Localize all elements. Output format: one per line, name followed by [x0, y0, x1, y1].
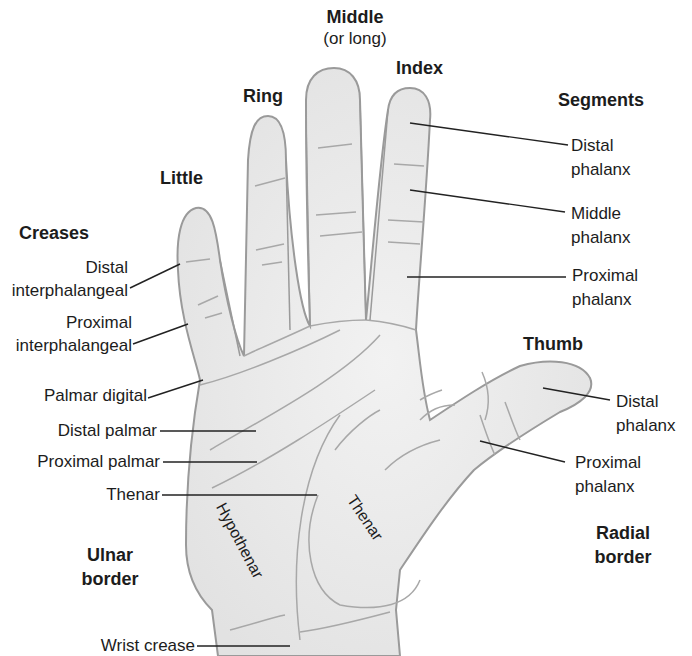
finger-label-middle: Middle [315, 7, 395, 27]
radial-border-line2: border [578, 547, 668, 567]
crease-distal-ip-line1: Distal [0, 258, 128, 278]
finger-label-little: Little [160, 168, 203, 188]
segment-distal-line2: phalanx [571, 160, 631, 180]
crease-thenar: Thenar [0, 485, 160, 505]
thumb-distal-line1: Distal [616, 392, 659, 412]
thumb-distal-line2: phalanx [616, 416, 676, 436]
thumb-proximal-line2: phalanx [575, 477, 635, 497]
finger-label-middle-alt: (or long) [305, 29, 405, 49]
crease-wrist: Wrist crease [0, 636, 195, 656]
segments-heading: Segments [558, 90, 644, 110]
crease-proximal-ip-line2: interphalangeal [0, 336, 132, 356]
finger-label-ring: Ring [243, 86, 283, 106]
radial-border-line1: Radial [578, 523, 668, 543]
segment-distal-line1: Distal [571, 136, 614, 156]
finger-label-thumb: Thumb [523, 334, 583, 354]
thumb-proximal-line1: Proximal [575, 453, 641, 473]
segment-middle-line2: phalanx [571, 228, 631, 248]
creases-heading: Creases [19, 223, 89, 243]
crease-distal-palmar: Distal palmar [0, 421, 157, 441]
crease-proximal-palmar: Proximal palmar [0, 452, 160, 472]
ulnar-border-line1: Ulnar [65, 545, 155, 565]
crease-palmar-digital: Palmar digital [0, 386, 147, 406]
ulnar-border-line2: border [65, 569, 155, 589]
segment-middle-line1: Middle [571, 204, 621, 224]
hand-anatomy-diagram: Middle (or long) Index Ring Little Thumb… [0, 0, 692, 656]
segment-proximal-line2: phalanx [572, 290, 632, 310]
crease-proximal-ip-line1: Proximal [0, 313, 132, 333]
segment-proximal-line1: Proximal [572, 266, 638, 286]
finger-label-index: Index [396, 58, 443, 78]
crease-distal-ip-line2: interphalangeal [0, 281, 128, 301]
